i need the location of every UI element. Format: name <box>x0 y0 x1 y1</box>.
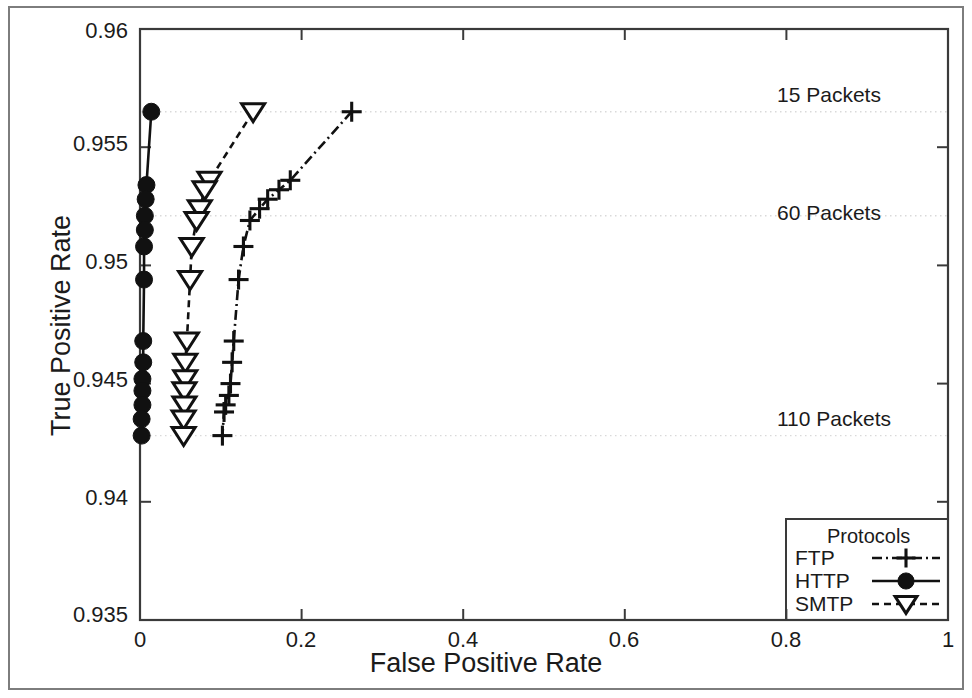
marker-http-0 <box>143 103 160 120</box>
annotation-60-packets: 60 Packets <box>777 201 881 225</box>
marker-smtp-7 <box>175 333 198 351</box>
x-axis-title: False Positive Rate <box>0 648 972 679</box>
gridlines <box>140 112 948 436</box>
annotation-15-packets: 15 Packets <box>777 83 881 107</box>
legend-label-smtp: SMTP <box>795 592 853 616</box>
ytick-label-1: 0.955 <box>14 131 128 157</box>
marker-http-8 <box>135 354 152 371</box>
marker-smtp-4 <box>185 212 208 230</box>
annotation-110-packets: 110 Packets <box>777 407 891 431</box>
series-http <box>133 103 160 444</box>
legend-label-ftp: FTP <box>795 546 835 570</box>
ytick-label-5: 0.935 <box>14 602 128 628</box>
marker-http-4 <box>136 221 153 238</box>
ytick-label-4: 0.94 <box>28 485 128 511</box>
marker-smtp-0 <box>242 104 265 122</box>
marker-http-12 <box>133 411 150 428</box>
roc-chart-figure: 0.96 0.955 0.95 0.945 0.94 0.935 0 0.2 0… <box>0 0 972 698</box>
ytick-label-3: 0.945 <box>14 367 128 393</box>
marker-http-legend <box>898 573 914 589</box>
marker-http-5 <box>136 238 153 255</box>
line-ftp <box>222 112 351 436</box>
series-smtp <box>172 104 264 446</box>
marker-smtp-13 <box>172 428 195 446</box>
marker-http-6 <box>136 271 153 288</box>
marker-smtp-6 <box>179 272 202 290</box>
ytick-label-0: 0.96 <box>28 18 128 44</box>
marker-smtp-2 <box>193 182 216 200</box>
data-series-layer <box>133 102 362 446</box>
marker-smtp-5 <box>180 238 203 256</box>
legend-title: Protocols <box>827 525 910 548</box>
ytick-label-2: 0.95 <box>28 249 128 275</box>
marker-http-7 <box>135 333 152 350</box>
marker-http-13 <box>133 427 150 444</box>
legend-label-http: HTTP <box>795 569 850 593</box>
marker-http-2 <box>137 191 154 208</box>
series-ftp <box>212 102 361 446</box>
